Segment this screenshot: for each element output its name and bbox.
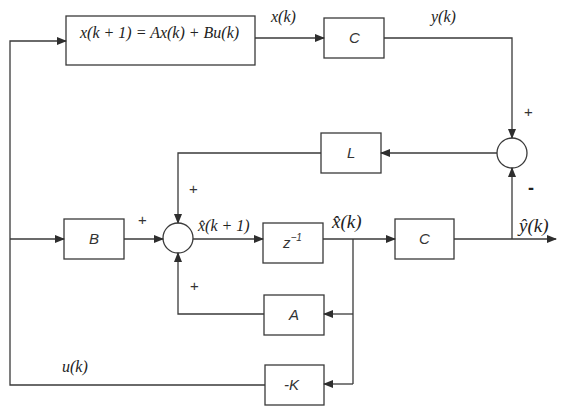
l-label: L xyxy=(347,144,355,161)
observer-sum-top-plus-sign: + xyxy=(189,180,198,197)
plant-equation: x(k + 1) = Ax(k) + Bu(k) xyxy=(79,24,239,42)
observer-summing-junction xyxy=(163,223,193,253)
observer-sum-left-plus-sign: + xyxy=(138,211,147,228)
observer-sum-bottom-plus-sign: + xyxy=(190,277,199,294)
u-k-signal-label: u(k) xyxy=(62,358,88,376)
b-label: B xyxy=(89,230,99,247)
error-sum-plus-sign: + xyxy=(524,103,533,120)
yhat-k-signal-label: ŷ(k) xyxy=(517,215,549,237)
x-k-signal-label: x(k) xyxy=(270,8,296,26)
block-diagram: x(k + 1) = Ax(k) + Bu(k) C L B z−1 C A -… xyxy=(0,0,572,414)
y-to-sum-line xyxy=(384,38,512,138)
xhat-k1-signal-label: x̂(k + 1) xyxy=(197,217,250,235)
y-k-signal-label: y(k) xyxy=(429,8,456,26)
output-c-label: C xyxy=(349,29,360,46)
xhat-k-signal-label: x̂(k) xyxy=(331,211,362,233)
k-label: -K xyxy=(284,376,300,393)
a-label: A xyxy=(288,306,299,323)
error-summing-junction xyxy=(497,138,527,168)
error-sum-minus-sign: - xyxy=(528,178,534,198)
diagram-svg: x(k + 1) = Ax(k) + Bu(k) C L B z−1 C A -… xyxy=(0,0,572,414)
estimate-c-label: C xyxy=(419,230,430,247)
delay-block xyxy=(263,223,323,263)
l-to-sum-line xyxy=(178,153,321,223)
